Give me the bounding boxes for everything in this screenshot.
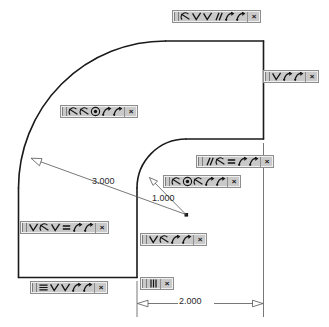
coincident-icon[interactable] xyxy=(237,156,248,167)
toolbar-drag-handle[interactable] xyxy=(62,107,67,116)
sketch-canvas[interactable]: 3.000 1.000 2.000 ××××××××× xyxy=(0,0,329,327)
close-icon[interactable]: × xyxy=(126,106,136,117)
toolbar-drag-handle[interactable] xyxy=(174,12,179,21)
dimension-label-width[interactable]: 2.000 xyxy=(179,296,202,306)
tangent-icon[interactable] xyxy=(180,11,191,22)
equal-icon[interactable] xyxy=(61,222,72,233)
concentric-icon[interactable] xyxy=(182,176,193,187)
equal-icon[interactable] xyxy=(226,156,237,167)
coincident-icon[interactable] xyxy=(204,176,215,187)
constraint-toolbar-top-edge-relations[interactable]: × xyxy=(172,10,261,23)
parallel-icon[interactable] xyxy=(204,156,215,167)
toolbar-drag-handle[interactable] xyxy=(198,157,203,166)
constraint-toolbar-bottom-edge-relations[interactable]: × xyxy=(30,281,108,294)
tangent-icon[interactable] xyxy=(193,176,204,187)
perpendicular-icon[interactable] xyxy=(191,11,202,22)
dim-arrow-right xyxy=(253,300,264,307)
coincident-icon[interactable] xyxy=(248,156,259,167)
close-icon[interactable]: × xyxy=(307,71,317,82)
perpendicular-icon[interactable] xyxy=(271,71,282,82)
constraint-toolbar-right-edge-relations[interactable]: × xyxy=(263,70,319,83)
tangent-icon[interactable] xyxy=(79,106,90,117)
toolbar-separator xyxy=(305,72,306,82)
coincident-icon[interactable] xyxy=(293,71,304,82)
perpendicular-icon[interactable] xyxy=(202,11,213,22)
close-icon[interactable]: × xyxy=(195,234,205,245)
constraint-toolbar-outer-arc-relations[interactable]: × xyxy=(60,105,138,118)
perpendicular-icon[interactable] xyxy=(28,222,39,233)
coincident-icon[interactable] xyxy=(235,11,246,22)
close-icon[interactable]: × xyxy=(97,222,107,233)
close-icon[interactable]: × xyxy=(249,11,259,22)
dimension-label-outer-radius[interactable]: 3.000 xyxy=(92,176,115,186)
coincident-icon[interactable] xyxy=(72,222,83,233)
constraint-toolbar-inner-vertical-edge-relations[interactable]: × xyxy=(140,233,207,246)
constraint-toolbar-left-edge-relations[interactable]: × xyxy=(20,221,109,234)
toolbar-separator xyxy=(260,157,261,167)
toolbar-separator xyxy=(227,177,228,187)
coincident-icon[interactable] xyxy=(112,106,123,117)
toolbar-separator xyxy=(94,283,95,293)
toolbar-drag-handle[interactable] xyxy=(22,223,27,232)
coincident-icon[interactable] xyxy=(181,234,192,245)
horizontal-icon[interactable] xyxy=(38,282,49,293)
radial-arrow-outer xyxy=(31,158,42,166)
linear-dimension-2[interactable] xyxy=(137,143,264,317)
coincident-icon[interactable] xyxy=(71,282,82,293)
tangent-icon[interactable] xyxy=(159,234,170,245)
tangent-icon[interactable] xyxy=(171,176,182,187)
tangent-icon[interactable] xyxy=(39,222,50,233)
close-icon[interactable]: × xyxy=(96,282,106,293)
coincident-icon[interactable] xyxy=(170,234,181,245)
parallel-icon[interactable] xyxy=(213,11,224,22)
toolbar-separator xyxy=(193,235,194,245)
toolbar-drag-handle[interactable] xyxy=(142,279,147,288)
perpendicular-icon[interactable] xyxy=(148,234,159,245)
toolbar-drag-handle[interactable] xyxy=(142,235,147,244)
close-icon[interactable]: × xyxy=(162,278,172,289)
tangent-icon[interactable] xyxy=(68,106,79,117)
perpendicular-icon[interactable] xyxy=(60,282,71,293)
perpendicular-icon[interactable] xyxy=(49,282,60,293)
constraint-toolbar-center-point-relation[interactable]: × xyxy=(140,277,174,290)
concentric-icon[interactable] xyxy=(90,106,101,117)
vertical-icon[interactable] xyxy=(148,278,159,289)
coincident-icon[interactable] xyxy=(282,71,293,82)
toolbar-drag-handle[interactable] xyxy=(165,177,170,186)
toolbar-drag-handle[interactable] xyxy=(265,72,270,81)
close-icon[interactable]: × xyxy=(229,176,239,187)
constraint-toolbar-inner-arc-relations[interactable]: × xyxy=(163,175,241,188)
constraint-toolbar-inner-top-edge-relations[interactable]: × xyxy=(196,155,274,168)
coincident-icon[interactable] xyxy=(224,11,235,22)
coincident-icon[interactable] xyxy=(83,222,94,233)
toolbar-separator xyxy=(247,12,248,22)
toolbar-separator xyxy=(95,223,96,233)
toolbar-separator xyxy=(160,279,161,289)
coincident-icon[interactable] xyxy=(82,282,93,293)
dimension-label-inner-radius[interactable]: 1.000 xyxy=(152,193,175,203)
toolbar-separator xyxy=(124,107,125,117)
close-icon[interactable]: × xyxy=(262,156,272,167)
toolbar-drag-handle[interactable] xyxy=(32,283,37,292)
coincident-icon[interactable] xyxy=(215,176,226,187)
tangent-icon[interactable] xyxy=(215,156,226,167)
dim-arrow-left xyxy=(138,300,149,307)
coincident-icon[interactable] xyxy=(101,106,112,117)
perpendicular-icon[interactable] xyxy=(50,222,61,233)
